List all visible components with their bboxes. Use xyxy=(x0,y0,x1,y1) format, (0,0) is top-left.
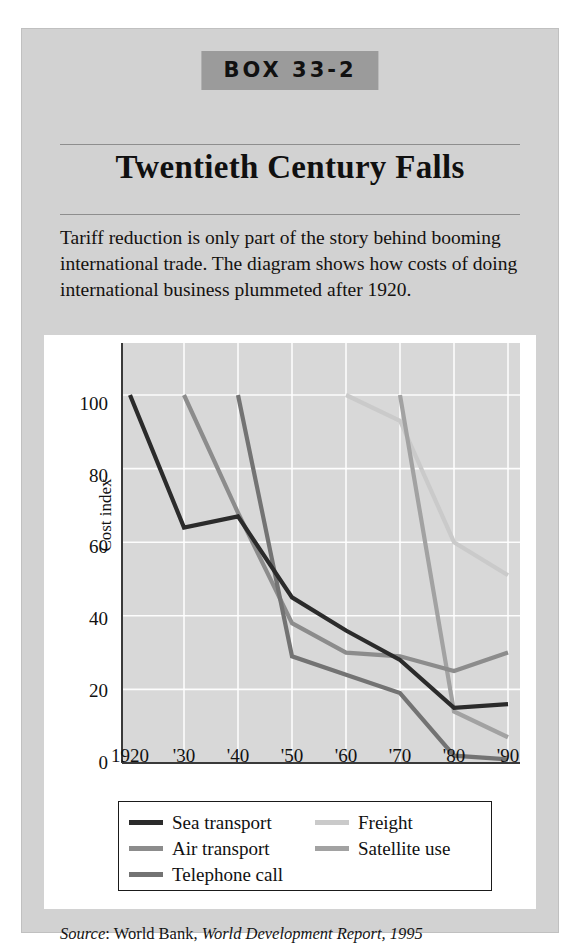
x-tick-label: '90 xyxy=(497,745,519,767)
source-work-title: World Development Report, 1995 xyxy=(202,924,423,943)
page-title: Twentieth Century Falls xyxy=(22,149,558,186)
x-tick-label: '30 xyxy=(173,745,195,767)
x-tick-label: '50 xyxy=(281,745,303,767)
plot-background xyxy=(122,343,520,763)
chart-legend: Sea transportFreightAir transportSatelli… xyxy=(118,801,492,891)
x-tick-label: 1920 xyxy=(111,745,149,767)
legend-swatch-icon xyxy=(315,846,349,851)
x-tick-label: '40 xyxy=(227,745,249,767)
x-tick-label: '60 xyxy=(335,745,357,767)
legend-label: Satellite use xyxy=(358,839,450,858)
legend-label: Telephone call xyxy=(172,865,283,884)
source-separator: : xyxy=(105,924,113,943)
box-panel: BOX 33-2 Twentieth Century Falls Tariff … xyxy=(22,29,558,932)
page-root: BOX 33-2 Twentieth Century Falls Tariff … xyxy=(0,0,580,949)
legend-swatch-icon xyxy=(315,820,349,825)
chart-plot-area: Cost index 100 80 60 40 20 0 1920 '30 '4… xyxy=(44,335,536,805)
chart-panel: Cost index 100 80 60 40 20 0 1920 '30 '4… xyxy=(44,335,536,909)
x-tick-label: '80 xyxy=(443,745,465,767)
source-label: Source xyxy=(60,924,105,943)
legend-swatch-icon xyxy=(129,846,163,851)
x-tick-label: '70 xyxy=(389,745,411,767)
legend-swatch-icon xyxy=(129,872,163,877)
legend-item: Sea transport xyxy=(129,809,315,835)
legend-item: Air transport xyxy=(129,835,315,861)
title-rule-top xyxy=(60,144,520,145)
source-publisher: World Bank, xyxy=(114,924,202,943)
legend-item: Telephone call xyxy=(129,861,315,887)
legend-label: Freight xyxy=(358,813,413,832)
title-rule-bottom xyxy=(60,214,520,215)
legend-swatch-icon xyxy=(129,820,163,825)
legend-item: Freight xyxy=(315,809,501,835)
legend-item: Satellite use xyxy=(315,835,501,861)
source-line: Source: World Bank, World Development Re… xyxy=(60,924,423,944)
box-number-tag: BOX 33-2 xyxy=(201,51,378,90)
intro-paragraph: Tariff reduction is only part of the sto… xyxy=(60,225,522,303)
legend-label: Sea transport xyxy=(172,813,272,832)
x-axis-ticks: 1920 '30 '40 '50 '60 '70 '80 '90 xyxy=(44,739,536,779)
legend-label: Air transport xyxy=(172,839,270,858)
line-chart-svg xyxy=(44,335,536,805)
